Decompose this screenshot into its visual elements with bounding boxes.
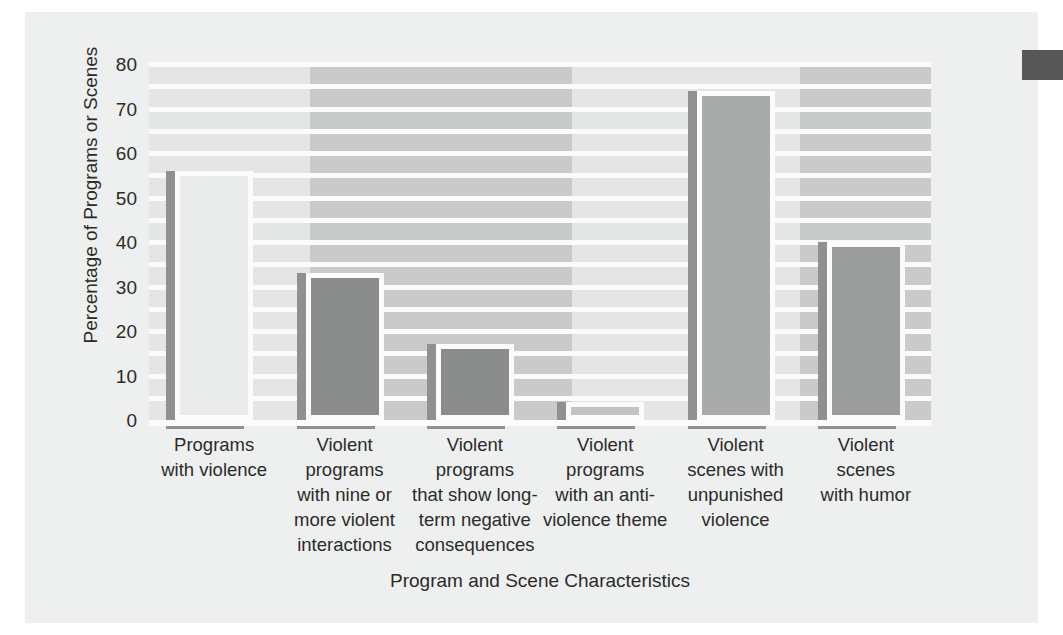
x-category-label-line: Violent — [279, 432, 409, 457]
x-category-label-line: violence theme — [540, 507, 670, 532]
x-category-label-line: that show long- — [410, 482, 540, 507]
x-category-label-line: more violent — [279, 507, 409, 532]
y-tick-label: 10 — [116, 366, 137, 385]
gridline — [149, 374, 931, 379]
y-tick-label: 30 — [116, 277, 137, 296]
x-category-label-line: with an anti- — [540, 482, 670, 507]
gridline — [149, 218, 931, 223]
y-tick-label: 20 — [116, 322, 137, 341]
y-tick-label: 40 — [116, 233, 137, 252]
gridline — [149, 84, 931, 89]
bar[interactable] — [827, 242, 905, 420]
gridline — [149, 307, 931, 312]
x-category-label: Violentprogramswith nine ormore violenti… — [279, 432, 409, 557]
gridline — [149, 129, 931, 134]
x-category-label-line: Violent — [410, 432, 540, 457]
gridline — [149, 173, 931, 178]
x-category-label-line: Violent — [540, 432, 670, 457]
bar-outline — [566, 402, 644, 420]
axis-baseline — [149, 420, 931, 426]
bar-fill — [311, 278, 379, 415]
x-category-label: Violentsceneswith humor — [801, 432, 931, 507]
bar-outline — [697, 91, 775, 420]
x-category-label-line: with humor — [801, 482, 931, 507]
x-category-label-line: term negative — [410, 507, 540, 532]
bar[interactable] — [566, 402, 644, 420]
x-category-label-line: Programs — [149, 432, 279, 457]
bar[interactable] — [175, 171, 253, 420]
bar-outline — [827, 242, 905, 420]
x-axis-category-labels: Programswith violenceViolentprogramswith… — [149, 432, 931, 562]
plot-area — [149, 64, 931, 420]
bar-fill — [180, 176, 248, 415]
y-tick-label: 80 — [116, 55, 137, 74]
bar-outline — [175, 171, 253, 420]
gridline — [149, 196, 931, 201]
x-category-label-line: Violent — [801, 432, 931, 457]
x-category-label-line: scenes with — [670, 457, 800, 482]
bar-chart: Percentage of Programs or Scenes 0102030… — [25, 12, 1038, 623]
x-category-label-line: programs — [540, 457, 670, 482]
y-tick-label: 50 — [116, 188, 137, 207]
gridline — [149, 351, 931, 356]
gridline — [149, 107, 931, 112]
gridline — [149, 396, 931, 401]
gridline — [149, 151, 931, 156]
x-category-label-line: programs — [279, 457, 409, 482]
gridline — [149, 262, 931, 267]
bar-fill — [702, 96, 770, 415]
gridline — [149, 62, 931, 67]
bar[interactable] — [306, 273, 384, 420]
y-axis-tick-labels: 01020304050607080 — [75, 52, 137, 432]
x-axis-title: Program and Scene Characteristics — [149, 570, 931, 592]
gridline — [149, 329, 931, 334]
y-tick-label: 60 — [116, 144, 137, 163]
x-category-label-line: violence — [670, 507, 800, 532]
x-category-label: Violentprogramsthat show long-term negat… — [410, 432, 540, 557]
y-tick-label: 0 — [126, 411, 137, 430]
x-category-label-line: consequences — [410, 532, 540, 557]
bar[interactable] — [436, 344, 514, 420]
x-category-label-line: interactions — [279, 532, 409, 557]
figure-plate: Percentage of Programs or Scenes 0102030… — [25, 12, 1038, 623]
bar-fill — [441, 349, 509, 415]
x-category-label-line: Violent — [670, 432, 800, 457]
x-category-label: Violentscenes withunpunishedviolence — [670, 432, 800, 532]
bar-outline — [306, 273, 384, 420]
bar-fill — [832, 247, 900, 415]
edge-marker — [1022, 50, 1063, 80]
x-category-label: Violentprogramswith an anti-violence the… — [540, 432, 670, 532]
x-category-label-line: with nine or — [279, 482, 409, 507]
x-category-label: Programswith violence — [149, 432, 279, 482]
x-category-label-line: scenes — [801, 457, 931, 482]
x-category-label-line: with violence — [149, 457, 279, 482]
x-category-label-line: programs — [410, 457, 540, 482]
bar[interactable] — [697, 91, 775, 420]
x-category-label-line: unpunished — [670, 482, 800, 507]
gridline — [149, 240, 931, 245]
bar-fill — [571, 407, 639, 415]
y-tick-label: 70 — [116, 99, 137, 118]
bar-outline — [436, 344, 514, 420]
gridline — [149, 285, 931, 290]
